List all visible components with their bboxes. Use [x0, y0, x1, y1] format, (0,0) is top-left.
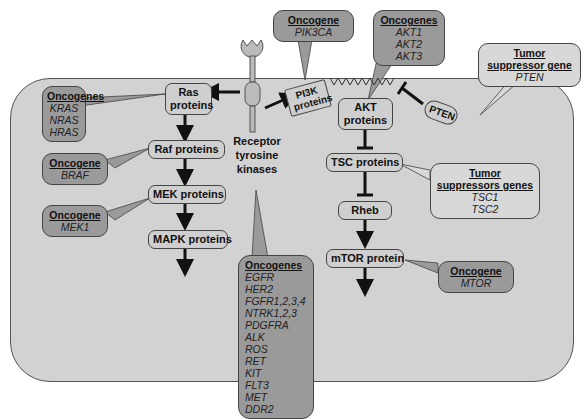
callout-mtor-oncogene: Oncogene MTOR — [438, 261, 514, 293]
callout-rtk-oncogenes: Oncogenes EGFR HER2 FGFR1,2,3,4 NTRK1,2,… — [238, 255, 314, 419]
node-raf-proteins: Raf proteins — [148, 140, 225, 159]
node-ras-proteins: Ras proteins — [165, 83, 212, 115]
node-mek-proteins: MEK proteins — [148, 185, 226, 204]
receptor-tyrosine-kinases-label: Receptor tyrosine kinases — [226, 134, 288, 176]
callout-pten-suppressor: Tumor suppressor gene PTEN — [478, 43, 581, 87]
callout-raf-oncogene: Oncogene BRAF — [42, 153, 108, 185]
callout-tsc-suppressors: Tumor suppressors genes TSC1 TSC2 — [430, 163, 540, 219]
callout-akt-oncogenes: Oncogenes AKT1 AKT2 AKT3 — [373, 10, 445, 66]
callout-ras-oncogenes: Oncogenes KRAS NRAS HRAS — [42, 86, 86, 142]
callout-pi3k-oncogene: Oncogene PIK3CA — [273, 10, 354, 42]
node-rheb: Rheb — [338, 201, 392, 220]
callout-mek-oncogene: Oncogene MEK1 — [42, 205, 108, 237]
node-tsc-proteins: TSC proteins — [326, 153, 403, 172]
node-mtor-protein: mTOR protein — [326, 249, 404, 268]
node-mapk-proteins: MAPK proteins — [148, 230, 228, 249]
node-akt-proteins: AKT proteins — [338, 98, 393, 130]
